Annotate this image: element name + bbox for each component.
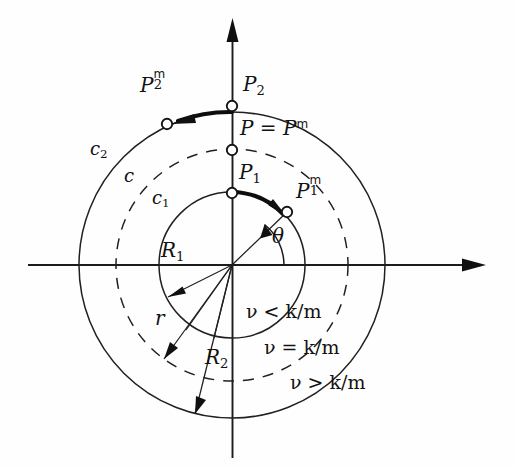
label-curve-c2: c2 — [90, 140, 108, 161]
label-point-P2m: Pm2 — [140, 72, 165, 95]
label-point-P1: P1 — [239, 162, 261, 185]
label-condition-nu-greater: ν > k/m — [290, 373, 365, 392]
label-point-P: P = Pm — [240, 118, 308, 138]
label-angle-theta: θ — [272, 226, 284, 246]
point-marker-P2m[interactable] — [162, 119, 172, 129]
label-point-P1m-scripts: m1 — [309, 178, 321, 198]
radius-R1-arrowhead — [168, 287, 186, 298]
label-curve-c: c — [124, 167, 134, 188]
radius-r-arrowhead — [164, 342, 178, 359]
figure-container: Pm2 P2 P = Pm P1 Pm1 c2 c c1 R1 r R2 θ ν… — [0, 0, 514, 468]
point-marker-P2[interactable] — [227, 101, 237, 111]
label-point-P2m-scripts: m2 — [153, 72, 165, 92]
point-marker-P1[interactable] — [227, 188, 237, 198]
construction-ray-a — [186, 265, 232, 330]
radius-R2-arrowhead — [195, 396, 206, 414]
label-condition-nu-equal: ν = k/m — [264, 338, 339, 357]
label-radius-r: r — [155, 308, 165, 331]
motion-arc-P2-arrowhead — [171, 114, 196, 124]
horizontal-axis-arrowhead — [462, 259, 486, 272]
vertical-axis-arrowhead — [227, 18, 239, 42]
label-radius-R1: R1 — [161, 240, 184, 263]
label-radius-R2: R2 — [205, 347, 228, 370]
diagram-canvas — [0, 0, 514, 468]
construction-ray-b — [214, 265, 232, 338]
point-marker-P1m[interactable] — [282, 207, 292, 217]
label-point-P2: P2 — [243, 74, 265, 97]
label-condition-nu-less: ν < k/m — [246, 302, 321, 321]
label-curve-c1: c1 — [152, 189, 170, 210]
label-point-P1m: Pm1 — [296, 178, 321, 201]
point-marker-P[interactable] — [227, 145, 237, 155]
